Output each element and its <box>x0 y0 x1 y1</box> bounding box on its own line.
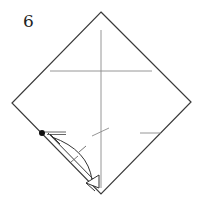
tick-mark-upper <box>79 146 86 152</box>
fold-edge-line <box>48 133 97 183</box>
short-diagonal-crease <box>92 128 109 136</box>
origami-diagram <box>0 0 200 204</box>
reference-dot-icon <box>39 130 45 136</box>
arrowhead-barb <box>50 134 60 144</box>
paper-outline <box>12 12 191 194</box>
